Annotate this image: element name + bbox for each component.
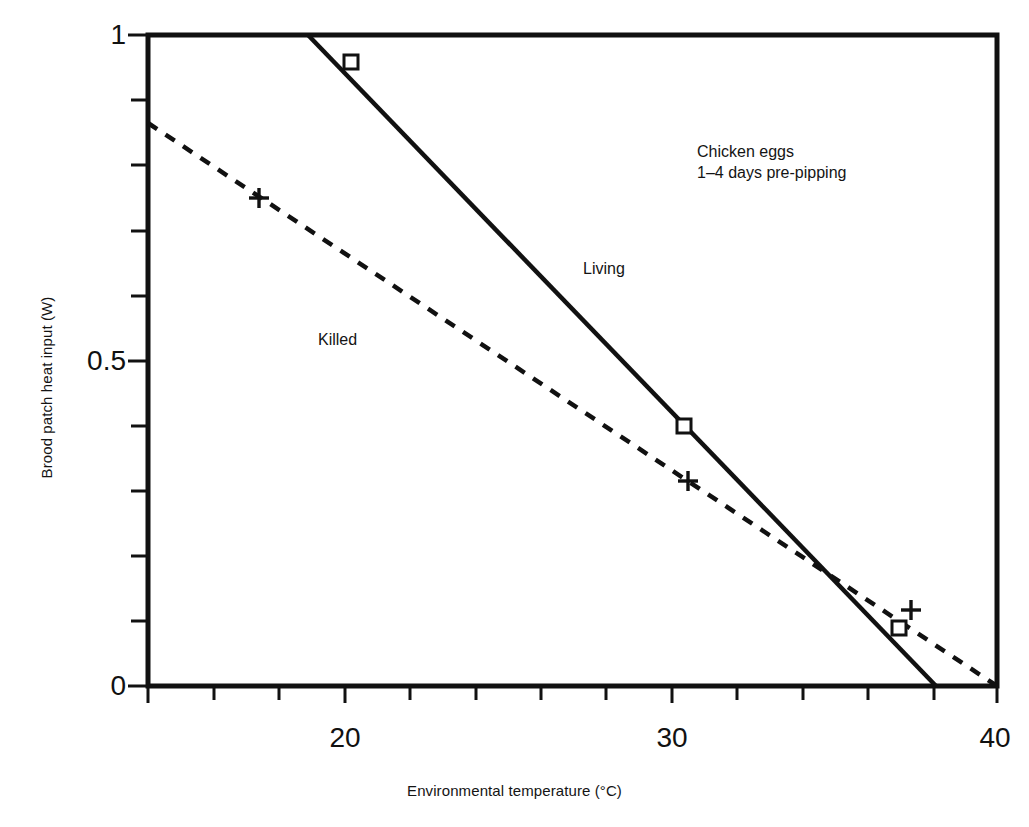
x-axis-title: Environmental temperature (°C) [0,782,1029,799]
x-tick-label-40: 40 [979,722,1010,754]
chart-figure: 20 30 40 1 0.5 0 Environmental temperatu… [0,0,1029,827]
x-tick-label-20: 20 [329,722,360,754]
data-point [677,419,691,433]
data-point [249,188,269,208]
x-tick-label-30: 30 [656,722,687,754]
sample-note-species: Chicken eggs [697,141,846,162]
series-killed-line [148,123,997,686]
y-axis-title: Brood patch heat input (W) [38,248,55,528]
series-killed-markers [249,188,921,620]
series-living-line [308,35,936,686]
living-series-label: Living [583,258,625,279]
data-point [344,55,358,69]
x-axis-ticks [148,686,997,703]
data-point [901,600,921,620]
y-tick-label-0: 0 [110,670,126,702]
plot-area [0,0,1029,827]
sample-note: Chicken eggs 1–4 days pre-pipping [697,141,846,183]
data-point [892,621,906,635]
y-axis-ticks [128,35,148,686]
plot-frame [148,35,997,686]
y-tick-label-1: 1 [110,19,126,51]
y-tick-label-0-5: 0.5 [87,345,126,377]
killed-series-label: Killed [318,329,357,350]
sample-note-stage: 1–4 days pre-pipping [697,162,846,183]
